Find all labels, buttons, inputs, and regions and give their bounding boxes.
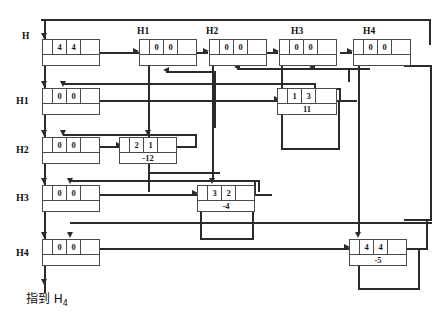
node-row-h4-toprow: 0 0 [43, 240, 99, 254]
cell-col-index: 3 [302, 89, 316, 103]
cell-col-index: 0 [67, 186, 81, 200]
wire-top-feedback-right-riser [429, 19, 431, 45]
row-label-h2: H2 [16, 145, 29, 155]
column-header-h2: H2 [206, 27, 218, 37]
cell-row-index: 0 [53, 138, 67, 152]
cell-col-index: 1 [144, 138, 158, 152]
node-head-h1-bottomrow [140, 54, 196, 66]
arrowhead-into-caption [41, 279, 47, 285]
cell-col-index: 0 [378, 40, 392, 54]
cell-col-index: 0 [67, 138, 81, 152]
wire-rowh3-feedback-riser [258, 180, 260, 192]
column-header-h3: H3 [291, 27, 303, 37]
cell-ptr [43, 186, 53, 200]
cell-col-index: 2 [222, 186, 236, 200]
wire-elem13-down-horizontal [281, 148, 340, 150]
wire-rowh3-to-elem32 [99, 194, 197, 196]
node-element-1-3[interactable]: 1 3 11 [277, 88, 337, 115]
cell-row-index: 0 [53, 89, 67, 103]
arrowhead-into-row-h2-left [41, 130, 47, 136]
node-head-h2-toprow: 0 0 [210, 40, 266, 54]
node-row-h1[interactable]: 0 0 [42, 88, 100, 115]
cell-ptr [43, 240, 53, 254]
cell-link [318, 40, 336, 54]
cell-link [158, 138, 176, 152]
node-row-h3[interactable]: 0 0 [42, 185, 100, 212]
column-header-h4: H4 [363, 27, 375, 37]
wire-elem21-right-link [175, 146, 197, 148]
cell-ptr [278, 89, 288, 103]
cell-row-index: 0 [53, 186, 67, 200]
column-header-h1: H1 [137, 27, 149, 37]
wire-elem13-right-link [337, 100, 357, 102]
node-head-h2[interactable]: 0 0 [209, 39, 267, 66]
cell-row-index: 4 [53, 40, 67, 54]
node-head-h[interactable]: 4 4 [42, 39, 100, 66]
row-label-h3: H3 [16, 193, 29, 203]
cell-link [236, 186, 254, 200]
arrowhead-into-row-h3-left [41, 178, 47, 184]
node-head-h3-bottomrow [280, 54, 336, 66]
arrowhead-into-elem44-top [355, 232, 361, 238]
sparse-matrix-linked-list-diagram: H H1 H2 H3 H4 H1 H2 H3 H4 [0, 0, 439, 312]
wire-elem21-right-riser [195, 134, 197, 148]
cell-row-index: 3 [208, 186, 222, 200]
node-element-1-3-value: 11 [278, 103, 336, 115]
cell-ptr [280, 40, 290, 54]
cell-ptr [43, 138, 53, 152]
node-row-h2-bottomrow [43, 152, 99, 164]
arrowhead-col-h1-feedback [163, 67, 169, 73]
node-element-1-3-toprow: 1 3 [278, 89, 336, 103]
node-head-h3[interactable]: 0 0 [279, 39, 337, 66]
cell-ptr [120, 138, 130, 152]
node-head-h4[interactable]: 0 0 [353, 39, 411, 66]
wire-elem13-down [281, 112, 283, 150]
arrowhead-into-row-h4-second [67, 232, 73, 238]
cell-row-index: 2 [130, 138, 144, 152]
arrowhead-into-row-h1-second [60, 81, 66, 87]
cell-ptr [210, 40, 220, 54]
node-element-4-4-value: -5 [350, 254, 406, 266]
cell-row-index: 0 [220, 40, 234, 54]
row-label-h4: H4 [16, 248, 29, 258]
node-head-h1-toprow: 0 0 [140, 40, 196, 54]
node-row-h2[interactable]: 0 0 [42, 137, 100, 164]
row-label-h1: H1 [16, 96, 29, 106]
wire-col-h3-feedback-horizontal [313, 68, 370, 70]
wire-col-h4-feedback-riser [430, 65, 432, 220]
cell-link [178, 40, 196, 54]
node-head-h3-toprow: 0 0 [280, 40, 336, 54]
cell-row-index: 0 [53, 240, 67, 254]
wire-top-feedback-horizontal [41, 19, 431, 21]
cell-link [388, 240, 406, 254]
cell-link [81, 89, 99, 103]
node-element-3-2-toprow: 3 2 [198, 186, 254, 200]
wire-elem44-down-riser [418, 248, 420, 289]
caption-subscript: 4 [63, 299, 68, 308]
cell-col-index: 4 [374, 240, 388, 254]
wire-elem32-down-horizontal [200, 238, 254, 240]
arrowhead-into-row-h1-left [41, 81, 47, 87]
cell-link [392, 40, 410, 54]
caption-text: 指到 H [26, 292, 63, 306]
wire-elem44-right-link [406, 248, 428, 250]
node-row-h3-bottomrow [43, 200, 99, 212]
node-head-h4-bottomrow [354, 54, 410, 66]
cell-link [81, 240, 99, 254]
cell-col-index: 0 [164, 40, 178, 54]
wire-elem44-right-riser [426, 219, 428, 249]
node-head-h1[interactable]: 0 0 [139, 39, 197, 66]
node-element-4-4[interactable]: 4 4 -5 [349, 239, 407, 266]
node-element-4-4-toprow: 4 4 [350, 240, 406, 254]
cell-row-index: 0 [290, 40, 304, 54]
arrowhead-into-elem32-top [209, 178, 215, 184]
node-row-h3-toprow: 0 0 [43, 186, 99, 200]
cell-ptr [198, 186, 208, 200]
cell-ptr [350, 240, 360, 254]
node-element-2-1[interactable]: 2 1 -12 [119, 137, 177, 164]
cell-col-index: 0 [234, 40, 248, 54]
column-header-h: H [22, 32, 29, 42]
node-row-h4[interactable]: 0 0 [42, 239, 100, 266]
node-element-3-2[interactable]: 3 2 -4 [197, 185, 255, 212]
cell-col-index: 0 [67, 240, 81, 254]
